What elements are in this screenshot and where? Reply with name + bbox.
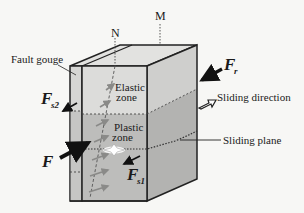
sliding-direction-arrow	[199, 100, 216, 109]
svg-text:r: r	[234, 66, 238, 76]
force-fr-label: F r	[223, 55, 238, 76]
fault-gouge-label: Fault gouge	[11, 53, 63, 65]
sliding-direction-label: Sliding direction	[217, 91, 291, 103]
svg-text:s2: s2	[50, 100, 60, 110]
axis-n-label: N	[111, 26, 120, 40]
fault-block-diagram: N M Fault gouge Elastic zone Plastic zon…	[0, 0, 304, 213]
sliding-plane-label: Sliding plane	[223, 134, 281, 146]
diagram-canvas: N M Fault gouge Elastic zone Plastic zon…	[0, 0, 304, 213]
plastic-zone-label-2: zone	[112, 131, 133, 143]
force-fr-arrow	[202, 69, 222, 80]
force-fs2-label: F s2	[40, 89, 60, 110]
elastic-zone-label-2: zone	[116, 91, 137, 103]
force-f-label: F	[41, 152, 54, 171]
axis-m-label: M	[155, 9, 166, 23]
svg-text:s1: s1	[136, 176, 145, 186]
svg-text:F: F	[41, 152, 54, 171]
